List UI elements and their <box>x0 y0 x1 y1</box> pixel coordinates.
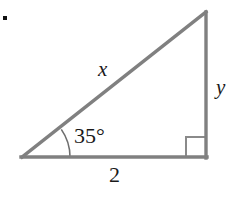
right-angle-marker <box>186 137 206 157</box>
hypotenuse-leg <box>22 12 206 157</box>
angle-arc <box>61 129 70 157</box>
vertical-leg-label: y <box>216 77 225 98</box>
triangle-drawing <box>0 0 240 204</box>
geometry-figure: x y 2 35° <box>0 0 240 204</box>
base-length-label: 2 <box>109 164 120 186</box>
hypotenuse-label: x <box>98 59 107 80</box>
angle-measure-label: 35° <box>74 125 105 147</box>
